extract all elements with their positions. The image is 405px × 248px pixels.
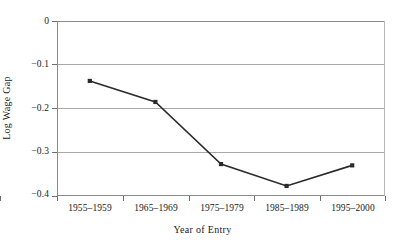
x-axis-title: Year of Entry [0, 224, 405, 235]
chart-figure: Log Wage Gap 0 −0.1 −0.2 −0.3 −0.4 1955–… [0, 0, 405, 248]
x-tick-label-0: 1955–1959 [68, 203, 112, 214]
gridline-n0p1 [58, 64, 384, 65]
y-tick-label-3: −0.3 [31, 146, 49, 156]
plot-area [57, 21, 385, 196]
x-tick-mark-0 [57, 196, 58, 201]
x-tick-mark-1 [123, 196, 124, 201]
y-tick-label-0: 0 [44, 16, 49, 26]
x-tick-mark-5 [385, 196, 386, 201]
gridline-0 [58, 21, 384, 22]
x-tick-label-2: 1975–1979 [200, 203, 244, 214]
y-tick-label-4: −0.4 [31, 189, 49, 199]
x-tick-mark-4 [320, 196, 321, 201]
gridline-n0p2 [58, 108, 384, 109]
x-tick-mark-2b [189, 196, 190, 201]
gridline-n0p4 [58, 195, 384, 196]
x-tick-label-1: 1965–1969 [134, 203, 178, 214]
gridline-n0p3 [58, 152, 384, 153]
x-tick-mark-2 [0, 196, 1, 201]
x-tick-label-4: 1995–2000 [331, 203, 375, 214]
y-tick-label-1: −0.1 [31, 59, 49, 69]
y-tick-label-2: −0.2 [31, 103, 49, 113]
x-tick-label-3: 1985–1989 [265, 203, 309, 214]
x-tick-mark-3 [254, 196, 255, 201]
y-axis-title: Log Wage Gap [1, 76, 12, 140]
